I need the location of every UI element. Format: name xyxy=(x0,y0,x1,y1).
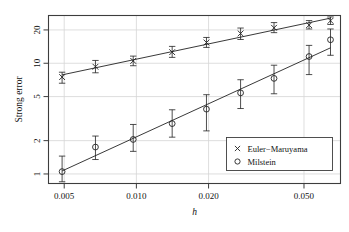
x-tick-label-2: 0.020 xyxy=(198,191,219,201)
x-tick-label-3: 0.050 xyxy=(294,191,315,201)
y-axis-title: Strong error xyxy=(14,76,24,123)
x-tick-label-0: 0.005 xyxy=(54,191,75,201)
x-tick-label-1: 0.010 xyxy=(126,191,147,201)
chart-canvas: 0.0050.0100.0200.050h1251020Strong error… xyxy=(0,0,349,232)
y-axis: 1251020Strong error xyxy=(14,25,49,176)
legend-label-milstein: Milstein xyxy=(248,157,277,167)
legend-box xyxy=(227,138,333,171)
x-axis-title: h xyxy=(192,207,197,217)
y-tick-label-0: 1 xyxy=(32,172,42,177)
y-tick-label-4: 20 xyxy=(32,25,42,34)
y-tick-label-2: 5 xyxy=(32,94,42,99)
strong-error-convergence-chart: 0.0050.0100.0200.050h1251020Strong error… xyxy=(0,0,349,232)
y-tick-label-1: 2 xyxy=(32,138,42,143)
y-tick-label-3: 10 xyxy=(32,58,42,68)
legend-label-euler-maruyama: Euler−Maruyama xyxy=(248,144,308,154)
legend: Euler−MaruyamaMilstein xyxy=(227,138,333,171)
series-euler-maruyama xyxy=(59,17,334,83)
x-axis: 0.0050.0100.0200.050h xyxy=(54,184,315,217)
